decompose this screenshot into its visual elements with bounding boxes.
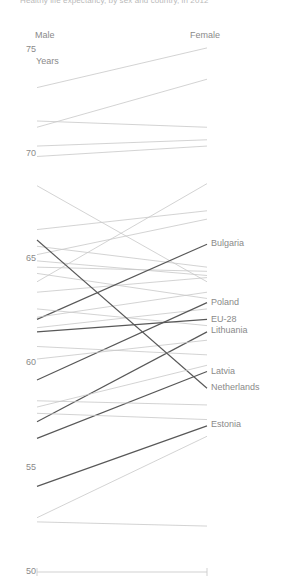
country-label-eu-28[interactable]: EU-28	[211, 315, 237, 324]
slope-line-lithuania[interactable]	[37, 332, 207, 422]
slope-line-unlabeled-04[interactable]	[37, 140, 207, 146]
slope-line-eu-28[interactable]	[37, 319, 207, 332]
bottom-axis	[37, 568, 207, 576]
slope-line-unlabeled-24[interactable]	[37, 522, 207, 526]
country-label-lithuania[interactable]: Lithuania	[211, 326, 248, 335]
slope-line-unlabeled-19[interactable]	[37, 340, 207, 359]
slope-line-unlabeled-21[interactable]	[37, 365, 207, 407]
country-label-bulgaria[interactable]: Bulgaria	[211, 239, 244, 248]
country-label-estonia[interactable]: Estonia	[211, 420, 241, 429]
slope-line-unlabeled-14[interactable]	[37, 278, 207, 293]
slope-line-unlabeled-18[interactable]	[37, 346, 207, 354]
slope-line-unlabeled-01[interactable]	[37, 48, 207, 88]
country-label-poland[interactable]: Poland	[211, 298, 239, 307]
slope-line-unlabeled-22[interactable]	[37, 413, 207, 419]
country-label-netherlands[interactable]: Netherlands	[211, 383, 260, 392]
slope-line-unlabeled-20[interactable]	[37, 401, 207, 405]
slope-chart: Healthy life expectancy, by sex and coun…	[0, 0, 288, 587]
slope-line-unlabeled-07[interactable]	[37, 211, 207, 230]
slope-line-group	[37, 48, 207, 526]
slope-line-unlabeled-05[interactable]	[37, 146, 207, 156]
slope-line-unlabeled-13[interactable]	[37, 273, 207, 298]
country-label-latvia[interactable]: Latvia	[211, 367, 235, 376]
slope-line-bulgaria[interactable]	[37, 244, 207, 319]
slope-line-unlabeled-11[interactable]	[37, 261, 207, 276]
slope-line-latvia[interactable]	[37, 372, 207, 439]
slope-lines-plot	[0, 0, 288, 587]
slope-line-unlabeled-10[interactable]	[37, 219, 207, 254]
slope-line-unlabeled-02[interactable]	[37, 121, 207, 127]
slope-line-unlabeled-03[interactable]	[37, 79, 207, 127]
